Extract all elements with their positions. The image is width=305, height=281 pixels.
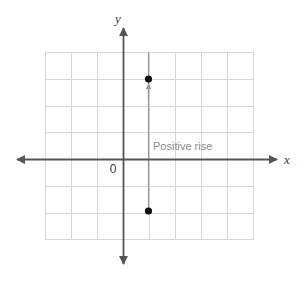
coordinate-plane-svg: y x 0 Positive rise bbox=[0, 0, 305, 281]
y-axis-label: y bbox=[113, 11, 121, 26]
origin-label: 0 bbox=[110, 162, 117, 176]
data-point-lower bbox=[145, 207, 152, 214]
x-axis-label: x bbox=[283, 152, 290, 167]
data-point-upper bbox=[145, 75, 152, 82]
positive-rise-label: Positive rise bbox=[153, 140, 212, 152]
coordinate-plane-figure: y x 0 Positive rise bbox=[0, 0, 305, 281]
